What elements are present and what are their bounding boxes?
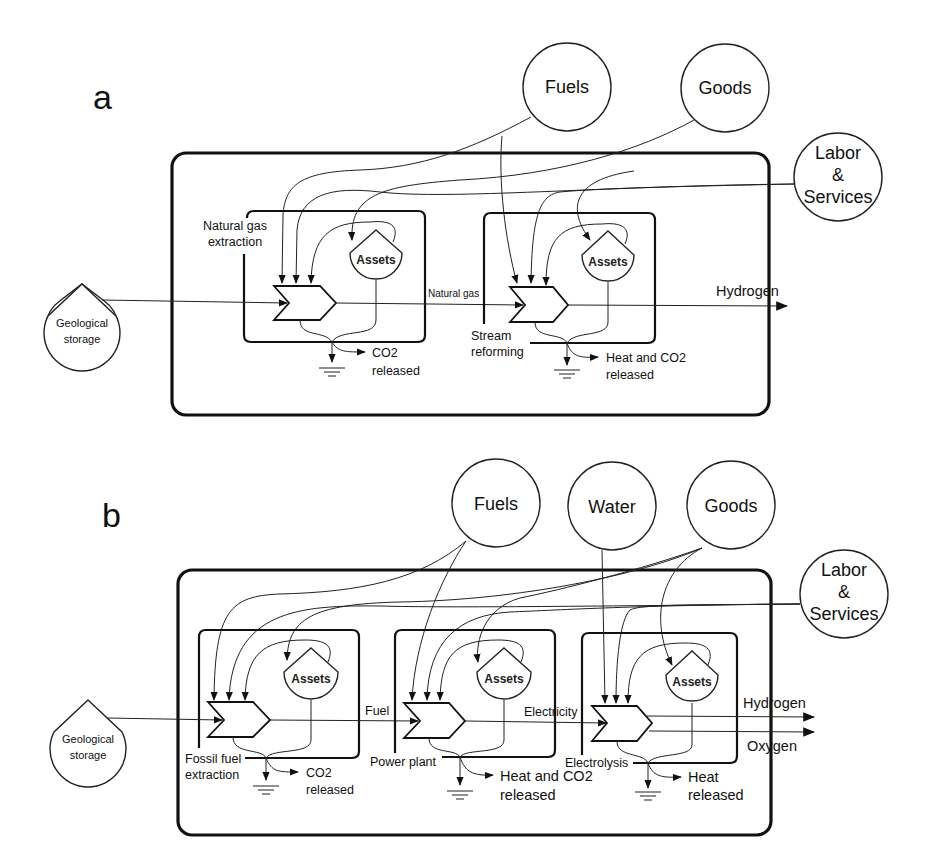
process-chevron <box>592 706 652 741</box>
svg-text:Labor: Labor <box>815 143 861 163</box>
svg-text:Heat and CO2: Heat and CO2 <box>500 768 593 784</box>
geological-storage-a: Geological storage <box>44 284 120 371</box>
svg-text:Fossil fuel: Fossil fuel <box>185 752 241 766</box>
flow-electricity <box>465 721 606 723</box>
source-goods-a: Goods <box>681 44 769 132</box>
svg-text:released: released <box>606 368 654 382</box>
svg-text:Water: Water <box>588 497 635 517</box>
source-fuels-a: Fuels <box>523 43 611 131</box>
source-fuels-b: Fuels <box>452 459 540 547</box>
svg-text:&: & <box>838 582 850 602</box>
svg-text:Services: Services <box>809 604 878 624</box>
svg-text:Oxygen: Oxygen <box>747 738 797 754</box>
svg-text:Assets: Assets <box>484 672 524 686</box>
ground-sink-icon <box>554 370 580 378</box>
panel-letter-a: a <box>93 78 112 116</box>
svg-text:Hydrogen: Hydrogen <box>716 283 779 299</box>
svg-text:Stream: Stream <box>471 329 511 343</box>
ground-sink-icon <box>253 786 279 794</box>
hydrogen-production-diagram: a Fuels Goods Labor & Services Geologica… <box>0 0 945 868</box>
flow-hydrogen-output <box>647 716 814 717</box>
svg-text:CO2: CO2 <box>372 346 398 360</box>
source-labor-services-a: Labor & Services <box>794 133 882 221</box>
svg-text:Geological: Geological <box>56 317 108 329</box>
svg-text:Natural gas: Natural gas <box>428 288 479 299</box>
flow-natural-gas <box>336 303 523 305</box>
flow-geological-to-extraction <box>102 300 287 303</box>
panel-letter-b: b <box>102 496 121 534</box>
svg-text:Heat: Heat <box>688 769 719 785</box>
flow-oxygen-output <box>649 731 814 732</box>
svg-text:Labor: Labor <box>821 560 867 580</box>
system-boundary-b <box>178 570 771 835</box>
svg-text:extraction: extraction <box>208 235 262 249</box>
flow-geological-to-extraction <box>107 718 222 720</box>
svg-text:reforming: reforming <box>471 345 524 359</box>
svg-text:Assets: Assets <box>588 255 628 269</box>
process-fossil-fuel-extraction: Fossil fuel extraction Assets CO2 releas… <box>185 630 359 797</box>
svg-text:Assets: Assets <box>291 672 331 686</box>
svg-text:released: released <box>500 787 556 803</box>
svg-text:Assets: Assets <box>356 253 396 267</box>
geological-storage-b: Geological storage <box>50 700 126 787</box>
svg-text:Fuel: Fuel <box>365 704 389 718</box>
svg-text:Goods: Goods <box>704 496 757 516</box>
svg-text:Geological: Geological <box>62 733 114 745</box>
ground-sink-icon <box>447 791 473 799</box>
svg-text:released: released <box>688 787 744 803</box>
svg-text:storage: storage <box>64 333 101 345</box>
svg-text:Electricity: Electricity <box>524 705 578 719</box>
source-labor-services-b: Labor & Services <box>800 550 888 638</box>
system-boundary-a <box>172 153 769 415</box>
svg-text:Assets: Assets <box>672 675 712 689</box>
svg-text:released: released <box>372 364 420 378</box>
process-stream-reforming: Stream reforming Assets Heat and CO2 rel… <box>471 213 686 382</box>
svg-text:Fuels: Fuels <box>545 77 589 97</box>
panel-a: a Fuels Goods Labor & Services Geologica… <box>44 43 882 415</box>
svg-text:Heat and CO2: Heat and CO2 <box>606 351 686 365</box>
svg-text:Goods: Goods <box>698 78 751 98</box>
svg-text:Fuels: Fuels <box>474 494 518 514</box>
source-goods-b: Goods <box>687 461 775 549</box>
svg-text:&: & <box>832 165 844 185</box>
flow-hydrogen-output <box>568 305 787 306</box>
source-water-b: Water <box>568 462 656 550</box>
svg-text:Hydrogen: Hydrogen <box>743 695 806 711</box>
svg-text:Services: Services <box>803 187 872 207</box>
svg-text:released: released <box>306 783 354 797</box>
panel-b: b Fuels Water Goods Labor & Services Geo… <box>50 459 888 835</box>
svg-text:Natural gas: Natural gas <box>203 219 267 233</box>
ground-sink-icon <box>635 792 661 800</box>
svg-text:storage: storage <box>70 749 107 761</box>
svg-text:Electrolysis: Electrolysis <box>565 756 628 770</box>
svg-text:extraction: extraction <box>185 768 239 782</box>
process-natural-gas-extraction: Natural gas extraction Assets CO2 releas… <box>203 211 425 378</box>
ground-sink-icon <box>319 368 345 376</box>
svg-text:CO2: CO2 <box>306 766 332 780</box>
svg-text:Power plant: Power plant <box>370 755 437 769</box>
